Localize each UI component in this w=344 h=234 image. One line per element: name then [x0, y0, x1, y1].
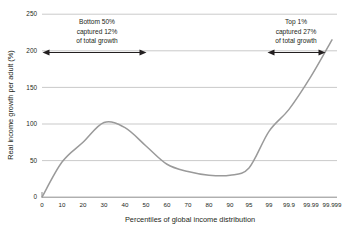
x-tick-99-99: 99.99 — [303, 201, 319, 208]
annotation-top-1-line-3: of total growth — [275, 37, 317, 45]
elephant-curve-chart: 250 200 150 100 50 0 0 10 20 30 40 50 60… — [0, 0, 344, 234]
x-tick-99-999: 99.999 — [323, 201, 342, 208]
y-tick-50: 50 — [30, 157, 38, 164]
x-tick-50: 50 — [143, 201, 150, 208]
x-tick-20: 20 — [80, 201, 87, 208]
chart-svg: 250 200 150 100 50 0 0 10 20 30 40 50 60… — [0, 0, 344, 234]
annotation-bottom-50-line-2: captured 12% — [77, 28, 118, 36]
x-tick-80: 80 — [206, 201, 213, 208]
x-tick-0: 0 — [40, 201, 44, 208]
y-tick-0: 0 — [33, 193, 37, 200]
x-tick-99-9: 99.9 — [283, 201, 296, 208]
annotation-top-1-line-1: Top 1% — [285, 18, 307, 26]
x-tick-90: 90 — [227, 201, 234, 208]
axes — [42, 192, 337, 197]
annotation-bottom-50: Bottom 50% captured 12% of total growth — [43, 18, 147, 55]
x-tick-60: 60 — [164, 201, 171, 208]
y-tick-labels: 250 200 150 100 50 0 — [26, 10, 37, 200]
x-tick-30: 30 — [101, 201, 108, 208]
x-tick-10: 10 — [59, 201, 66, 208]
annotation-bottom-50-line-3: of total growth — [76, 37, 118, 45]
annotation-top-1: Top 1% captured 27% of total growth — [268, 18, 326, 55]
x-tick-70: 70 — [185, 201, 192, 208]
x-tick-95: 95 — [246, 201, 253, 208]
x-tick-40: 40 — [122, 201, 129, 208]
y-tick-200: 200 — [26, 47, 37, 54]
income-growth-line — [42, 40, 332, 197]
x-tick-labels: 0 10 20 30 40 50 60 70 80 90 95 99 99.9 … — [40, 201, 342, 208]
y-tick-100: 100 — [26, 120, 37, 127]
x-axis-title: Percentiles of global income distributio… — [125, 215, 255, 224]
y-axis-title: Real income growth per adult (%) — [6, 50, 15, 160]
annotation-bottom-50-line-1: Bottom 50% — [79, 18, 115, 25]
annotation-top-1-line-2: captured 27% — [276, 28, 317, 36]
y-tick-150: 150 — [26, 84, 37, 91]
x-tick-99: 99 — [266, 201, 273, 208]
y-tick-250: 250 — [26, 10, 37, 17]
